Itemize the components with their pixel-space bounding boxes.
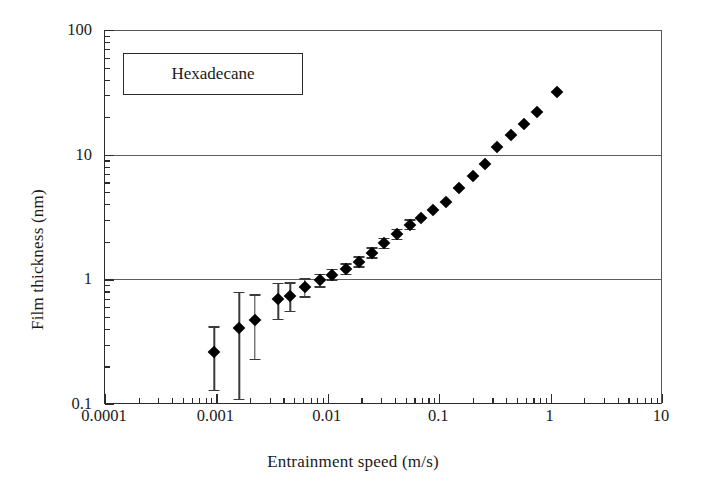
x-tick-major bbox=[328, 394, 329, 403]
data-point bbox=[284, 289, 297, 302]
data-point bbox=[248, 314, 261, 327]
y-tick-minor bbox=[105, 174, 110, 175]
gridline-y-10 bbox=[105, 155, 662, 156]
y-tick-label: 0.1 bbox=[0, 396, 92, 413]
error-bar-cap-lower bbox=[249, 359, 260, 360]
y-tick-minor bbox=[105, 36, 110, 37]
y-tick-minor bbox=[105, 285, 110, 286]
error-bar-cap-upper bbox=[249, 294, 260, 295]
error-bar-cap-upper bbox=[209, 326, 220, 327]
y-tick-major bbox=[105, 279, 114, 280]
x-tick-minor bbox=[381, 398, 382, 403]
legend-box: Hexadecane bbox=[123, 53, 303, 95]
data-point bbox=[272, 292, 285, 305]
error-bar-cap-upper bbox=[234, 292, 245, 293]
y-tick-minor bbox=[105, 192, 110, 193]
y-tick-minor bbox=[105, 317, 110, 318]
x-tick-minor bbox=[492, 398, 493, 403]
x-tick-minor bbox=[414, 398, 415, 403]
x-tick-minor bbox=[517, 398, 518, 403]
y-tick-minor bbox=[105, 95, 110, 96]
x-tick-minor bbox=[270, 398, 271, 403]
figure-hexadecane-film-thickness: Hexadecane Entrainment speed (m/s) Film … bbox=[0, 0, 706, 493]
y-tick-minor bbox=[105, 299, 110, 300]
y-tick-label: 100 bbox=[0, 22, 92, 39]
data-point bbox=[466, 169, 479, 182]
y-tick-major bbox=[105, 404, 114, 405]
y-tick-major bbox=[105, 30, 114, 31]
x-tick-minor bbox=[540, 398, 541, 403]
y-tick-minor bbox=[105, 204, 110, 205]
x-tick-minor bbox=[434, 398, 435, 403]
x-tick-label: 1 bbox=[545, 408, 553, 425]
x-tick-minor bbox=[645, 398, 646, 403]
x-tick-label: 10 bbox=[653, 408, 670, 425]
x-tick-minor bbox=[199, 398, 200, 403]
y-tick-minor bbox=[105, 58, 110, 59]
x-tick-major bbox=[662, 394, 663, 403]
y-tick-minor bbox=[105, 117, 110, 118]
x-tick-minor bbox=[192, 398, 193, 403]
x-tick-minor bbox=[628, 398, 629, 403]
x-tick-minor bbox=[294, 398, 295, 403]
y-tick-label: 10 bbox=[0, 146, 92, 163]
data-point bbox=[427, 204, 440, 217]
error-bar bbox=[238, 292, 239, 399]
data-point bbox=[440, 195, 453, 208]
x-tick-label: 0.01 bbox=[312, 408, 341, 425]
x-tick-minor bbox=[526, 398, 527, 403]
legend-label: Hexadecane bbox=[171, 64, 254, 84]
x-tick-minor bbox=[172, 398, 173, 403]
y-tick-minor bbox=[105, 182, 110, 183]
y-tick-minor bbox=[105, 80, 110, 81]
x-tick-minor bbox=[211, 398, 212, 403]
data-point bbox=[314, 274, 327, 287]
y-tick-minor bbox=[105, 345, 110, 346]
data-point bbox=[298, 281, 311, 294]
y-tick-minor bbox=[105, 329, 110, 330]
x-tick-minor bbox=[657, 398, 658, 403]
data-point bbox=[551, 85, 564, 98]
x-tick-minor bbox=[139, 398, 140, 403]
data-point bbox=[505, 128, 518, 141]
data-point bbox=[479, 158, 492, 171]
error-bar-cap-lower bbox=[209, 390, 220, 391]
y-tick-minor bbox=[105, 49, 110, 50]
frame-right bbox=[661, 30, 662, 404]
data-point bbox=[531, 106, 544, 119]
y-tick-minor bbox=[105, 220, 110, 221]
gridline-y-1 bbox=[105, 279, 662, 280]
x-tick-minor bbox=[361, 398, 362, 403]
x-tick-minor bbox=[473, 398, 474, 403]
y-tick-minor bbox=[105, 242, 110, 243]
x-tick-minor bbox=[604, 398, 605, 403]
y-tick-minor bbox=[105, 68, 110, 69]
error-bar-cap-lower bbox=[299, 296, 310, 297]
x-tick-minor bbox=[283, 398, 284, 403]
x-tick-minor bbox=[506, 398, 507, 403]
x-tick-minor bbox=[158, 398, 159, 403]
x-tick-minor bbox=[428, 398, 429, 403]
x-tick-major bbox=[216, 394, 217, 403]
x-tick-minor bbox=[546, 398, 547, 403]
x-tick-minor bbox=[250, 398, 251, 403]
x-tick-minor bbox=[533, 398, 534, 403]
data-point bbox=[491, 141, 504, 154]
x-tick-minor bbox=[311, 398, 312, 403]
data-point bbox=[208, 346, 221, 359]
data-point bbox=[414, 212, 427, 225]
error-bar-cap-lower bbox=[285, 311, 296, 312]
y-tick-minor bbox=[105, 167, 110, 168]
x-tick-minor bbox=[317, 398, 318, 403]
x-tick-minor bbox=[651, 398, 652, 403]
x-tick-major bbox=[439, 394, 440, 403]
x-tick-minor bbox=[637, 398, 638, 403]
y-tick-minor bbox=[105, 42, 110, 43]
x-tick-minor bbox=[584, 398, 585, 403]
x-tick-label: 0.001 bbox=[197, 408, 234, 425]
y-tick-minor bbox=[105, 291, 110, 292]
error-bar-cap-lower bbox=[234, 399, 245, 400]
x-tick-minor bbox=[303, 398, 304, 403]
error-bar-cap-lower bbox=[273, 319, 284, 320]
frame-top bbox=[105, 30, 662, 31]
